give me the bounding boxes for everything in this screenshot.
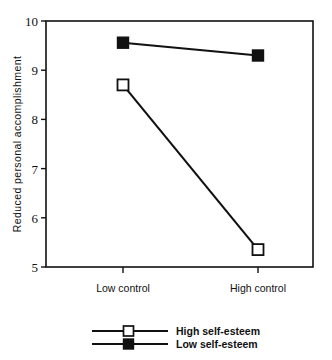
data-point-high-self-esteem-low-control bbox=[118, 79, 129, 90]
y-tick-label: 8 bbox=[32, 112, 39, 127]
y-tick-label: 10 bbox=[25, 14, 38, 29]
chart-figure: 10 9 8 7 6 5 Reduced personal accomplish… bbox=[0, 0, 332, 360]
data-point-high-self-esteem-high-control bbox=[253, 244, 264, 255]
legend-label-low-self-esteem: Low self-esteem bbox=[176, 338, 258, 350]
y-axis-title: Reduced personal accomplishment bbox=[11, 56, 23, 232]
y-tick-label: 9 bbox=[32, 63, 39, 78]
x-category-label-high-control: High control bbox=[230, 282, 286, 294]
y-tick-label: 6 bbox=[32, 211, 39, 226]
x-category-label-low-control: Low control bbox=[96, 282, 150, 294]
data-point-low-self-esteem-low-control bbox=[118, 37, 129, 48]
y-tick-label: 7 bbox=[32, 162, 39, 177]
chart-background bbox=[0, 0, 332, 360]
legend-marker-open-square bbox=[124, 326, 134, 336]
data-point-low-self-esteem-high-control bbox=[253, 50, 264, 61]
y-tick-label: 5 bbox=[32, 260, 39, 275]
legend-marker-filled-square bbox=[124, 339, 134, 349]
interaction-line-chart: 10 9 8 7 6 5 Reduced personal accomplish… bbox=[0, 0, 332, 360]
legend-label-high-self-esteem: High self-esteem bbox=[176, 325, 260, 337]
